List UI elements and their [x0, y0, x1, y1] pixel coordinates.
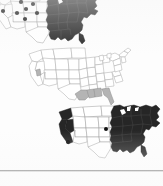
map-top-shaded-states [46, 0, 98, 44]
point-marker [66, 140, 70, 144]
point-marker [23, 17, 27, 21]
choropleth-map-bottom [56, 104, 163, 166]
point-marker [104, 127, 108, 131]
figure-page [0, 0, 163, 186]
point-marker [24, 7, 28, 11]
point-marker [19, 0, 23, 4]
point-marker [35, 11, 39, 15]
point-marker [31, 2, 35, 6]
choropleth-map-middle [25, 44, 137, 106]
point-marker [15, 11, 19, 15]
map-bottom-shaded-east [110, 105, 160, 157]
map-top-unshaded-states [0, 0, 49, 43]
horizontal-rule-shadow [0, 171, 163, 172]
point-marker [1, 9, 5, 13]
